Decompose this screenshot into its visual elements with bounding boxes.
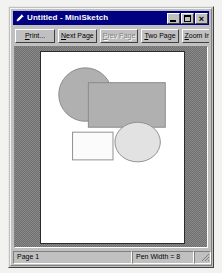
resize-grip-icon[interactable]: [199, 250, 211, 263]
prev-page-button-label: Prev Page: [103, 30, 136, 41]
print-preview-area[interactable]: [14, 46, 208, 248]
large-rectangle: [88, 83, 165, 128]
close-glyph: ×: [196, 13, 207, 24]
status-page-indicator: Page 1: [13, 251, 132, 264]
prev-page-button: Prev Page: [100, 29, 139, 43]
two-page-button-label: Two Page: [144, 30, 175, 41]
window-title: Untitled - MiniSketch: [27, 13, 167, 23]
application-window-inner: Untitled - MiniSketch × Print... Next Pa…: [10, 8, 212, 266]
status-pen-width-label: Pen Width = 8: [136, 252, 180, 262]
maximize-icon[interactable]: [181, 13, 194, 24]
print-button-label: Print...: [25, 30, 45, 41]
status-page-label: Page 1: [17, 252, 39, 262]
zoom-in-button[interactable]: Zoom In: [182, 29, 209, 43]
next-page-button[interactable]: Next Page: [58, 29, 97, 43]
status-bar: Page 1 Pen Width = 8: [13, 250, 211, 264]
title-bar: Untitled - MiniSketch ×: [13, 11, 209, 25]
close-icon[interactable]: ×: [195, 13, 208, 24]
sketch-drawing: [41, 52, 184, 243]
print-button[interactable]: Print...: [15, 29, 55, 43]
small-rectangle: [73, 132, 113, 160]
status-pen-width: Pen Width = 8: [132, 251, 194, 264]
preview-page-sheet: [40, 51, 185, 244]
minimize-icon[interactable]: [167, 13, 180, 24]
screenshot-canvas: Untitled - MiniSketch × Print... Next Pa…: [0, 0, 222, 273]
pencil-icon: [14, 13, 25, 24]
small-ellipse: [115, 122, 160, 162]
zoom-in-button-label: Zoom In: [185, 30, 209, 41]
preview-toolbar: Print... Next Page Prev Page Two Page Zo…: [13, 27, 209, 44]
window-controls: ×: [167, 13, 208, 24]
application-window: Untitled - MiniSketch × Print... Next Pa…: [8, 6, 214, 268]
two-page-button[interactable]: Two Page: [141, 29, 178, 43]
next-page-button-label: Next Page: [61, 30, 94, 41]
